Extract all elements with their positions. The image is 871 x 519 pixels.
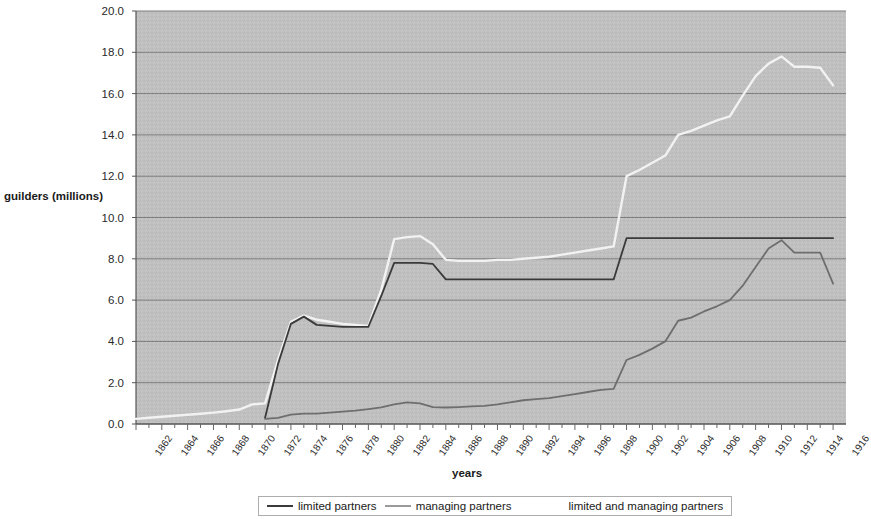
chart-legend: limited partnersmanaging partnerslimited…: [258, 496, 732, 516]
legend-swatch-icon: [267, 505, 293, 507]
legend-label: limited partners: [298, 500, 377, 512]
legend-swatch-icon: [538, 505, 564, 507]
legend-entry[interactable]: managing partners: [377, 497, 512, 515]
legend-label: limited and managing partners: [569, 500, 724, 512]
legend-swatch-icon: [385, 505, 411, 507]
legend-entry[interactable]: limited and managing partners: [512, 497, 724, 515]
x-axis-ticks: [136, 424, 833, 430]
legend-label: managing partners: [416, 500, 512, 512]
legend-entry[interactable]: limited partners: [259, 497, 377, 515]
